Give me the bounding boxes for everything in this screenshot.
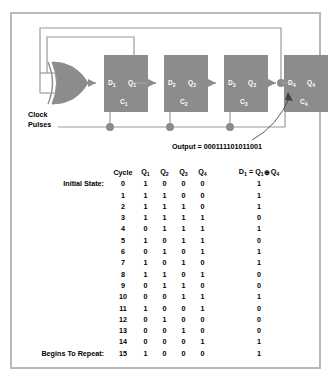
ff3-c-label: C3 [240,98,248,105]
ff2-d-label: D2 [168,79,176,86]
row-q4: 0 [193,201,212,212]
ff4-d-label: D4 [288,79,296,86]
row-d: 1 [212,223,296,234]
row-d: 1 [212,201,296,212]
row-q4: 0 [193,314,212,325]
row-note [18,291,110,302]
row-q2: 1 [155,190,174,201]
row-cycle: 0 [110,178,136,189]
ff1-d-label: D1 [108,79,116,86]
header-d-expression: D1 = Q1⊕Q4 [212,166,296,178]
row-q1: 0 [136,291,155,302]
row-note [18,201,110,212]
row-cycle: 9 [110,280,136,291]
row-q1: 0 [136,325,155,336]
ff4-q-label: Q4 [307,79,315,86]
header-cycle: Cycle [110,166,136,178]
row-d: 0 [212,325,296,336]
row-q3: 1 [174,280,193,291]
row-q3: 1 [174,235,193,246]
row-d: 1 [212,291,296,302]
shift-register-circuit [0,0,333,165]
row-q3: 0 [174,269,193,280]
row-d: 0 [212,269,296,280]
row-q2: 0 [155,303,174,314]
row-q2: 0 [155,178,174,189]
xor-symbol: ⊕ [264,169,271,176]
row-q3: 0 [174,190,193,201]
row-q3: 0 [174,246,193,257]
row-q4: 0 [193,348,212,359]
row-note [18,190,110,201]
row-q2: 1 [155,314,174,325]
row-d: 1 [212,190,296,201]
row-note: Initial State: [18,178,110,189]
row-q2: 0 [155,336,174,347]
table-row: 710101 [18,257,296,268]
row-q1: 1 [136,235,155,246]
table-row: 1300100 [18,325,296,336]
row-q1: 1 [136,178,155,189]
row-q2: 0 [155,291,174,302]
row-note [18,336,110,347]
row-d: 1 [212,348,296,359]
row-q4: 1 [193,303,212,314]
row-note: Begins To Repeat: [18,348,110,359]
ff2-q-label: Q2 [188,79,196,86]
row-q1: 0 [136,223,155,234]
table-row: 901100 [18,280,296,291]
row-cycle: 2 [110,201,136,212]
row-cycle: 10 [110,291,136,302]
row-q4: 1 [193,212,212,223]
row-d: 0 [212,303,296,314]
table-row: Begins To Repeat:1510001 [18,348,296,359]
ff4-c-label: C4 [300,98,308,105]
row-q1: 1 [136,303,155,314]
figure-root: D1 Q1 C1 D2 Q2 C2 D3 Q3 C3 D4 Q4 C4 Cloc… [0,0,333,381]
row-q3: 0 [174,336,193,347]
table-row: 401111 [18,223,296,234]
table-row: 311110 [18,212,296,223]
row-q3: 1 [174,257,193,268]
row-d: 1 [212,178,296,189]
row-q1: 1 [136,269,155,280]
row-d: 0 [212,212,296,223]
row-cycle: 14 [110,336,136,347]
row-q1: 0 [136,336,155,347]
row-q3: 1 [174,223,193,234]
table-row: 1110010 [18,303,296,314]
state-table-container: Cycle Q1 Q2 Q3 Q4 D1 = Q1⊕Q4 [18,166,314,359]
row-q2: 1 [155,223,174,234]
row-q1: 0 [136,280,155,291]
table-row: 111001 [18,190,296,201]
row-cycle: 11 [110,303,136,314]
row-cycle: 12 [110,314,136,325]
table-row: 510110 [18,235,296,246]
row-q3: 1 [174,325,193,336]
row-q1: 0 [136,314,155,325]
row-q3: 0 [174,303,193,314]
row-q3: 1 [174,212,193,223]
row-q4: 0 [193,178,212,189]
row-q4: 1 [193,291,212,302]
row-q4: 1 [193,235,212,246]
row-cycle: 13 [110,325,136,336]
row-q4: 0 [193,257,212,268]
row-q4: 0 [193,280,212,291]
row-q3: 0 [174,348,193,359]
row-q2: 1 [155,280,174,291]
row-note [18,223,110,234]
table-row: 601011 [18,246,296,257]
row-q1: 1 [136,201,155,212]
state-table: Cycle Q1 Q2 Q3 Q4 D1 = Q1⊕Q4 [18,166,296,359]
clock-node-1 [106,123,114,131]
row-q1: 1 [136,190,155,201]
row-d: 0 [212,235,296,246]
table-row: 811010 [18,269,296,280]
row-note [18,257,110,268]
clock-label-line2: Pulses [28,120,51,130]
row-cycle: 4 [110,223,136,234]
table-row: 1201000 [18,314,296,325]
header-note [18,166,110,178]
row-d: 1 [212,336,296,347]
